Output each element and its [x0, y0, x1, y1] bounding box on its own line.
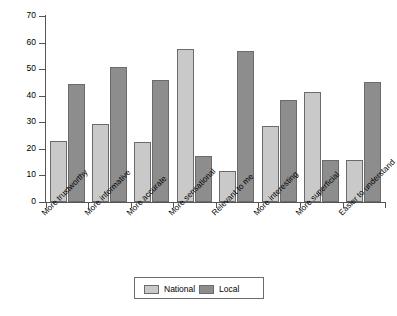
- y-axis-tick-label: 60: [6, 38, 36, 47]
- y-axis-tick-label: 0: [6, 197, 36, 206]
- x-axis-tick: [385, 203, 386, 208]
- legend-swatch-local: [199, 285, 214, 294]
- y-axis-tick-label: 70: [6, 11, 36, 20]
- y-axis-tick: [39, 43, 45, 44]
- legend-swatch-national: [144, 285, 159, 294]
- y-axis-tick-label: 40: [6, 91, 36, 100]
- legend-label: National: [164, 284, 195, 294]
- chart-legend: NationalLocal: [134, 277, 264, 299]
- y-axis-tick: [39, 69, 45, 70]
- y-axis-tick: [39, 96, 45, 97]
- y-axis-tick-label: 30: [6, 117, 36, 126]
- y-axis-tick-label: 20: [6, 144, 36, 153]
- y-axis-tick-label: 50: [6, 64, 36, 73]
- legend-item-national: National: [144, 283, 195, 295]
- y-axis-tick: [39, 202, 45, 203]
- legend-label: Local: [219, 284, 239, 294]
- bar-national: [177, 49, 194, 202]
- legend-item-local: Local: [199, 283, 239, 295]
- y-axis-tick: [39, 122, 45, 123]
- y-axis-tick: [39, 16, 45, 17]
- y-axis-tick: [39, 175, 45, 176]
- y-axis-tick: [39, 149, 45, 150]
- y-axis-tick-label: 10: [6, 170, 36, 179]
